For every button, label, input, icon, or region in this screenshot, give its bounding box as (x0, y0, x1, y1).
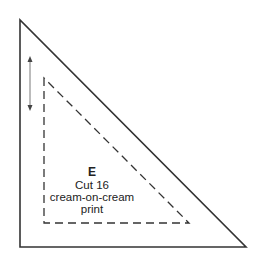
cut-instruction: Cut 16 (42, 179, 142, 191)
grain-arrow-icon (28, 56, 33, 111)
fabric-description: cream-on-cream (42, 191, 142, 203)
piece-letter: E (42, 166, 142, 178)
template-drawing (0, 0, 260, 263)
fabric-description-cont: print (42, 203, 142, 215)
